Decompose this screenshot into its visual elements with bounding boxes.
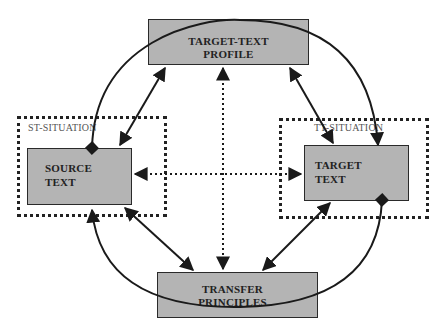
bottom-arc-connector: [92, 200, 382, 307]
diagram-canvas: ST-SITUATION TT-SITUATION TARGET-TEXT PR…: [0, 0, 447, 334]
source-to-transfer-connector: [125, 208, 193, 270]
target-to-transfer-connector: [263, 203, 330, 270]
top-arc-connector: [92, 20, 378, 148]
source-to-profile-connector: [120, 68, 165, 145]
connectors-layer: [0, 0, 447, 334]
target-to-profile-connector: [290, 68, 333, 143]
